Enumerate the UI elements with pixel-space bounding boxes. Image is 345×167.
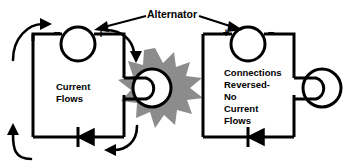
alternator-callout: Alternator bbox=[94, 8, 243, 32]
alternator-left bbox=[61, 27, 95, 61]
diode-right bbox=[248, 127, 264, 147]
diagram-canvas: – + bbox=[0, 0, 345, 167]
caption-right-line-5: Flows bbox=[224, 115, 251, 126]
flow-arrow-bottom-left-icon bbox=[7, 123, 31, 159]
caption-left-line-1: Current bbox=[56, 81, 91, 92]
caption-right-line-4: Current bbox=[224, 103, 259, 114]
caption-left-line-2: Flows bbox=[56, 93, 83, 104]
caption-right-line-3: No bbox=[224, 91, 237, 102]
alternator-right-negative-terminal: – bbox=[268, 25, 275, 39]
caption-right-line-1: Connections bbox=[224, 67, 282, 78]
alternator-callout-label: Alternator bbox=[147, 8, 197, 20]
electromagnet-coil-right bbox=[294, 69, 341, 107]
circuit-left: – + bbox=[7, 18, 171, 159]
diode-left bbox=[78, 127, 94, 147]
circuit-diagram-figure: – + bbox=[0, 0, 345, 167]
caption-right-line-2: Reversed- bbox=[224, 79, 270, 90]
flow-arrow-bottom-right-icon bbox=[104, 126, 137, 156]
circuit-right: + – Connections Reversed- No Current Flo… bbox=[203, 25, 341, 147]
alternator-left-negative-terminal: – bbox=[54, 25, 61, 39]
alternator-right bbox=[231, 27, 265, 61]
